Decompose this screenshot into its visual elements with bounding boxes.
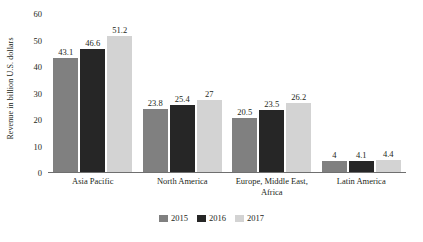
bar[interactable]: 51.2: [107, 36, 132, 172]
bar[interactable]: 4.1: [349, 161, 374, 172]
bar-value-label: 4.1: [356, 150, 367, 160]
bar-group: 23.825.427: [138, 14, 228, 172]
bar-group: 20.523.526.2: [227, 14, 317, 172]
chart-legend: 201520162017: [0, 214, 423, 223]
bar-slot: 27: [197, 14, 222, 172]
y-axis-tick-labels: 0102030405060: [0, 0, 48, 173]
legend-item[interactable]: 2016: [197, 214, 226, 223]
bar-group: 43.146.651.2: [48, 14, 138, 172]
bar[interactable]: 23.5: [259, 110, 284, 172]
bar-value-label: 26.2: [291, 92, 306, 102]
bar[interactable]: 26.2: [286, 103, 311, 172]
bar[interactable]: 43.1: [53, 58, 78, 172]
bar[interactable]: 46.6: [80, 49, 105, 172]
legend-swatch-icon: [235, 215, 244, 222]
y-axis-tick-label: 20: [34, 115, 43, 125]
bar-slot: 51.2: [107, 14, 132, 172]
bar-value-label: 23.5: [264, 99, 279, 109]
y-axis-tick-label: 0: [38, 168, 42, 178]
bar[interactable]: 25.4: [170, 105, 195, 172]
bar[interactable]: 27: [197, 100, 222, 172]
x-axis-category-label: Europe, Middle East, Africa: [227, 176, 317, 197]
bar-chart: Revenue in billion U.S. dollars 01020304…: [0, 0, 423, 242]
bar-slot: 4: [322, 14, 347, 172]
bar[interactable]: 20.5: [232, 118, 257, 172]
plot-area: 43.146.651.223.825.42720.523.526.244.14.…: [48, 14, 406, 173]
y-axis-tick-label: 30: [34, 89, 43, 99]
bar-slot: 46.6: [80, 14, 105, 172]
x-axis-line: [48, 172, 406, 173]
bar-value-label: 23.8: [148, 98, 163, 108]
bar-value-label: 25.4: [175, 94, 190, 104]
bar[interactable]: 4: [322, 161, 347, 172]
legend-item[interactable]: 2015: [159, 214, 188, 223]
legend-swatch-icon: [197, 215, 206, 222]
bar-groups: 43.146.651.223.825.42720.523.526.244.14.…: [48, 14, 406, 172]
legend-item[interactable]: 2017: [235, 214, 264, 223]
bar-value-label: 4.4: [383, 149, 394, 159]
y-axis-tick-label: 60: [34, 9, 43, 19]
bar-value-label: 51.2: [112, 25, 127, 35]
bar-group: 44.14.4: [317, 14, 407, 172]
bar-slot: 4.4: [376, 14, 401, 172]
bar-slot: 4.1: [349, 14, 374, 172]
bar-value-label: 43.1: [58, 47, 73, 57]
bar-slot: 43.1: [53, 14, 78, 172]
bar-slot: 25.4: [170, 14, 195, 172]
bar-slot: 26.2: [286, 14, 311, 172]
bar-value-label: 46.6: [85, 38, 100, 48]
bar-value-label: 4: [332, 150, 336, 160]
bar[interactable]: 23.8: [143, 109, 168, 172]
legend-label: 2015: [171, 214, 188, 223]
y-axis-tick-label: 50: [34, 36, 43, 46]
y-axis-tick-label: 40: [34, 62, 43, 72]
x-axis-category-label: North America: [138, 176, 228, 197]
bar-value-label: 27: [205, 89, 214, 99]
legend-label: 2016: [209, 214, 226, 223]
bar[interactable]: 4.4: [376, 160, 401, 172]
bar-slot: 20.5: [232, 14, 257, 172]
legend-swatch-icon: [159, 215, 168, 222]
x-axis-category-label: Latin America: [317, 176, 407, 197]
x-axis-category-label: Asia Pacific: [48, 176, 138, 197]
bar-slot: 23.8: [143, 14, 168, 172]
y-axis-tick-label: 10: [34, 142, 43, 152]
bar-slot: 23.5: [259, 14, 284, 172]
legend-label: 2017: [247, 214, 264, 223]
x-axis-category-labels: Asia PacificNorth AmericaEurope, Middle …: [48, 176, 406, 197]
bar-value-label: 20.5: [237, 107, 252, 117]
